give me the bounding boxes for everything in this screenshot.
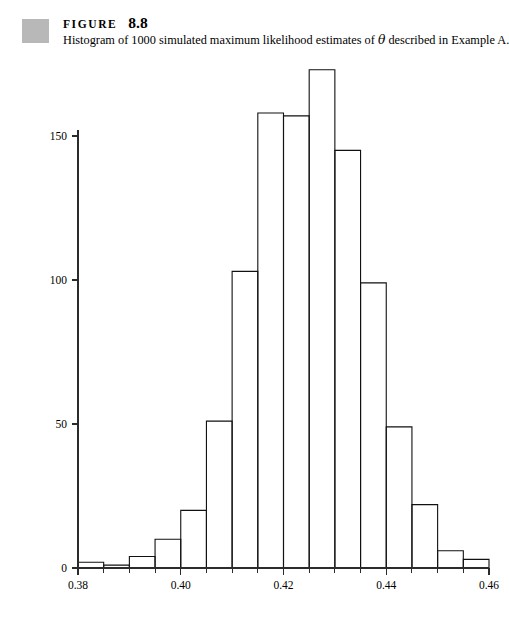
histogram-bar (206, 421, 232, 568)
x-axis-tick-label: 0.38 (68, 579, 88, 591)
histogram-bar (335, 150, 361, 568)
y-axis-tick-label: 50 (56, 418, 68, 430)
y-axis-tick-label: 0 (61, 562, 67, 574)
histogram-bar (438, 551, 464, 568)
histogram-bar (309, 70, 335, 568)
y-axis-tick-label: 100 (50, 274, 68, 286)
histogram-bar (78, 562, 104, 568)
histogram-bars-group (78, 70, 489, 568)
histogram-bar (386, 427, 412, 568)
histogram-bar (361, 283, 387, 568)
histogram-bar (155, 539, 181, 568)
histogram-bar (232, 271, 258, 568)
histogram-bar (258, 113, 284, 568)
x-axis-tick-label: 0.42 (273, 579, 293, 591)
y-ticks-group: 050100150 (50, 130, 78, 574)
x-axis-tick-label: 0.46 (479, 579, 499, 591)
y-axis-tick-label: 150 (50, 130, 68, 142)
histogram-bar (284, 116, 310, 568)
x-axis-tick-label: 0.44 (376, 579, 396, 591)
x-ticks-group: 0.380.400.420.440.46 (68, 568, 499, 591)
x-axis-tick-label: 0.40 (171, 579, 191, 591)
histogram-bar (129, 556, 155, 568)
histogram-bar (412, 505, 438, 568)
histogram-bar (181, 510, 207, 568)
histogram-bar (463, 559, 489, 568)
